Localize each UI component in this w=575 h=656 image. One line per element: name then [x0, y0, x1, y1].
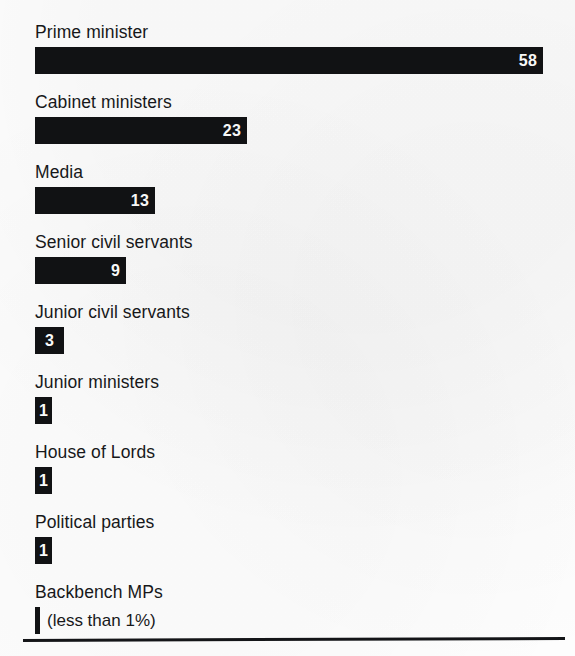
- bar-fill: [35, 607, 40, 634]
- bar-annotation: (less than 1%): [47, 607, 156, 634]
- bar-row: Junior civil servants3: [35, 302, 565, 354]
- bar-fill: 1: [35, 467, 52, 494]
- bar-row: Political parties1: [35, 512, 565, 564]
- bar-value-label: 1: [39, 543, 48, 559]
- bar-track: 1: [35, 537, 565, 564]
- bar-track: 3: [35, 327, 565, 354]
- bar-category-label: Backbench MPs: [35, 582, 565, 602]
- horizontal-bar-chart: Prime minister58Cabinet ministers23Media…: [0, 0, 575, 656]
- bar-row: Cabinet ministers23: [35, 92, 565, 144]
- bar-value-label: 58: [519, 53, 543, 69]
- bar-track: 9: [35, 257, 565, 284]
- bar-track: 13: [35, 187, 565, 214]
- bar-row: Junior ministers1: [35, 372, 565, 424]
- bar-track: 1: [35, 397, 565, 424]
- bar-track: 1: [35, 467, 565, 494]
- bar-value-label: 1: [39, 403, 48, 419]
- bar-row: Media13: [35, 162, 565, 214]
- bar-fill: 9: [35, 257, 126, 284]
- bar-category-label: Junior ministers: [35, 372, 565, 392]
- bar-track: 23: [35, 117, 565, 144]
- bar-track: (less than 1%): [35, 607, 565, 634]
- bar-fill: 23: [35, 117, 247, 144]
- bar-value-label: 3: [45, 333, 54, 349]
- chart-page: Prime minister58Cabinet ministers23Media…: [0, 0, 575, 656]
- bar-value-label: 13: [131, 193, 155, 209]
- bar-category-label: Cabinet ministers: [35, 92, 565, 112]
- bar-fill: 3: [35, 327, 64, 354]
- bar-fill: 13: [35, 187, 155, 214]
- bar-row: House of Lords1: [35, 442, 565, 494]
- bar-category-label: House of Lords: [35, 442, 565, 462]
- bar-category-label: Prime minister: [35, 22, 565, 42]
- bar-value-label: 9: [111, 263, 126, 279]
- bar-category-label: Junior civil servants: [35, 302, 565, 322]
- bar-track: 58: [35, 47, 565, 74]
- bar-category-label: Senior civil servants: [35, 232, 565, 252]
- bar-row: Backbench MPs(less than 1%): [35, 582, 565, 634]
- bar-value-label: 23: [223, 123, 247, 139]
- bar-fill: 1: [35, 397, 52, 424]
- bar-row: Senior civil servants9: [35, 232, 565, 284]
- bar-fill: 58: [35, 47, 543, 74]
- bar-category-label: Political parties: [35, 512, 565, 532]
- bar-row: Prime minister58: [35, 22, 565, 74]
- bar-fill: 1: [35, 537, 52, 564]
- bar-value-label: 1: [39, 473, 48, 489]
- bar-category-label: Media: [35, 162, 565, 182]
